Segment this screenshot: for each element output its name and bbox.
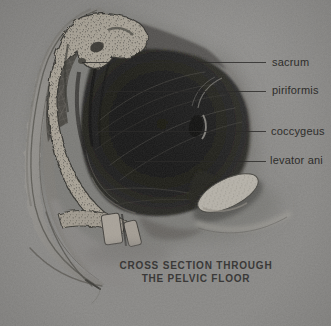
leader-line-piriformis xyxy=(106,91,266,92)
label-sacrum: sacrum xyxy=(272,56,309,68)
label-piriformis: piriformis xyxy=(272,84,319,96)
figure-pelvic-floor: sacrum piriformis coccygeus levator ani … xyxy=(0,0,331,326)
leader-line-levator-ani xyxy=(135,161,266,162)
leader-line-sacrum xyxy=(82,62,266,63)
label-levator-ani: levator ani xyxy=(270,154,323,166)
label-coccygeus: coccygeus xyxy=(271,125,325,137)
figure-caption: CROSS SECTION THROUGH THE PELVIC FLOOR xyxy=(76,259,316,285)
leader-line-coccygeus xyxy=(93,131,266,132)
caption-line-1: CROSS SECTION THROUGH xyxy=(76,259,316,272)
caption-line-2: THE PELVIC FLOOR xyxy=(76,272,316,285)
